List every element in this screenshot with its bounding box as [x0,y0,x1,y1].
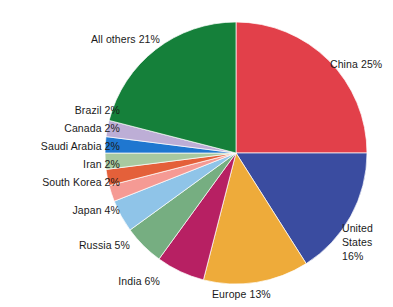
slice-label-south-korea: South Korea 2% [2,176,120,190]
slice-label-russia: Russia 5% [20,239,130,253]
pie-slice-china [236,22,367,153]
slice-label-china: China 25% [330,58,393,72]
slice-label-saudi-arabia: Saudi Arabia 2% [2,140,120,154]
slice-label-united-states: United States 16% [342,222,393,264]
slice-label-brazil: Brazil 2% [8,104,120,118]
slice-label-canada: Canada 2% [8,122,120,136]
slice-label-europe: Europe 13% [212,288,322,302]
slice-label-iran: Iran 2% [8,158,120,172]
slice-label-japan: Japan 4% [14,204,120,218]
slice-label-india: India 6% [50,275,160,289]
slice-label-all-others: All others 21% [46,33,160,47]
pie-chart: All others 21% China 25% Brazil 2% Canad… [0,0,393,307]
